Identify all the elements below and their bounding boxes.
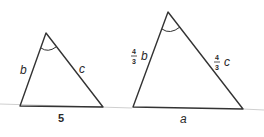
large-right-side-var: c <box>224 55 230 69</box>
large-triangle-angle-marker <box>162 27 180 32</box>
similar-triangles-diagram: b c 5 4 3 b 4 3 c a <box>0 0 264 137</box>
small-triangle <box>20 33 103 107</box>
large-right-coef-numerator: 4 <box>215 54 219 61</box>
faint-baseline-right <box>243 109 264 110</box>
large-base-label: a <box>180 112 187 126</box>
small-left-side-label: b <box>20 63 27 77</box>
small-base-label: 5 <box>58 112 64 124</box>
small-triangle-angle-marker <box>41 47 56 50</box>
small-right-side-label: c <box>79 62 85 76</box>
large-right-coef-denominator: 3 <box>215 64 219 71</box>
large-left-coef-numerator: 4 <box>132 48 136 55</box>
large-left-side-var: b <box>141 49 148 63</box>
large-left-coef-denominator: 3 <box>132 58 136 65</box>
